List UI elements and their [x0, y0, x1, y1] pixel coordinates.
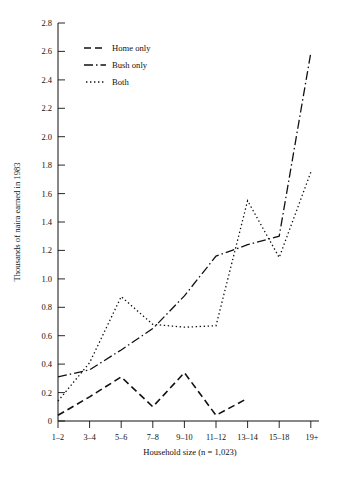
- legend-item-home-only: Home only: [84, 43, 151, 53]
- chart-figure: 2.8 2.6 2.4 2.2 2.0 1.8 1.6 1.4 1.2 1.0 …: [0, 0, 344, 477]
- chart-legend: Home only Bush only Both: [84, 43, 151, 87]
- x-tick-label: 1–2: [52, 433, 64, 442]
- y-tick-label: 0: [48, 416, 52, 426]
- legend-item-bush-only: Bush only: [84, 60, 148, 70]
- y-tick-label: 0.4: [41, 359, 52, 369]
- y-axis-ticks: [58, 23, 65, 421]
- y-tick-label: 1.8: [41, 160, 52, 170]
- y-tick-label: 2.4: [41, 75, 52, 85]
- x-axis-tick-labels: 1–2 3–4 5–6 7–8 9–10 11–12 13–14 15–18 1…: [52, 433, 319, 442]
- legend-label: Bush only: [112, 60, 148, 70]
- y-tick-label: 0.6: [41, 331, 52, 341]
- x-tick-label: 3–4: [83, 433, 95, 442]
- y-tick-label: 1.4: [41, 217, 52, 227]
- x-axis-title: Household size (n = 1,023): [143, 447, 237, 457]
- x-tick-label: 5–6: [115, 433, 127, 442]
- y-tick-label: 0.2: [41, 388, 52, 398]
- y-tick-label: 1.0: [41, 274, 52, 284]
- y-axis-tick-labels: 2.8 2.6 2.4 2.2 2.0 1.8 1.6 1.4 1.2 1.0 …: [41, 18, 52, 426]
- y-tick-label: 2.2: [41, 103, 52, 113]
- x-tick-label: 7–8: [147, 433, 159, 442]
- y-tick-label: 1.2: [41, 245, 52, 255]
- legend-item-both: Both: [86, 77, 129, 87]
- x-tick-label: 19+: [306, 433, 319, 442]
- y-axis-title: Thousands of naira earned in 1983: [12, 162, 22, 281]
- y-tick-label: 2.6: [41, 46, 52, 56]
- series-line-bush-only: [58, 53, 311, 377]
- legend-label: Both: [112, 77, 129, 87]
- series-group: [58, 53, 311, 415]
- y-tick-label: 0.8: [41, 302, 52, 312]
- x-axis-ticks: [58, 421, 311, 428]
- x-tick-label: 9–10: [176, 433, 192, 442]
- series-line-home-only: [58, 373, 248, 416]
- legend-label: Home only: [112, 43, 151, 53]
- series-line-both: [58, 172, 311, 401]
- x-tick-label: 13–14: [237, 433, 257, 442]
- y-tick-label: 2.0: [41, 132, 52, 142]
- y-tick-label: 2.8: [41, 18, 52, 28]
- line-chart-svg: 2.8 2.6 2.4 2.2 2.0 1.8 1.6 1.4 1.2 1.0 …: [0, 0, 344, 477]
- x-tick-label: 15–18: [269, 433, 289, 442]
- x-tick-label: 11–12: [206, 433, 226, 442]
- y-tick-label: 1.6: [41, 189, 52, 199]
